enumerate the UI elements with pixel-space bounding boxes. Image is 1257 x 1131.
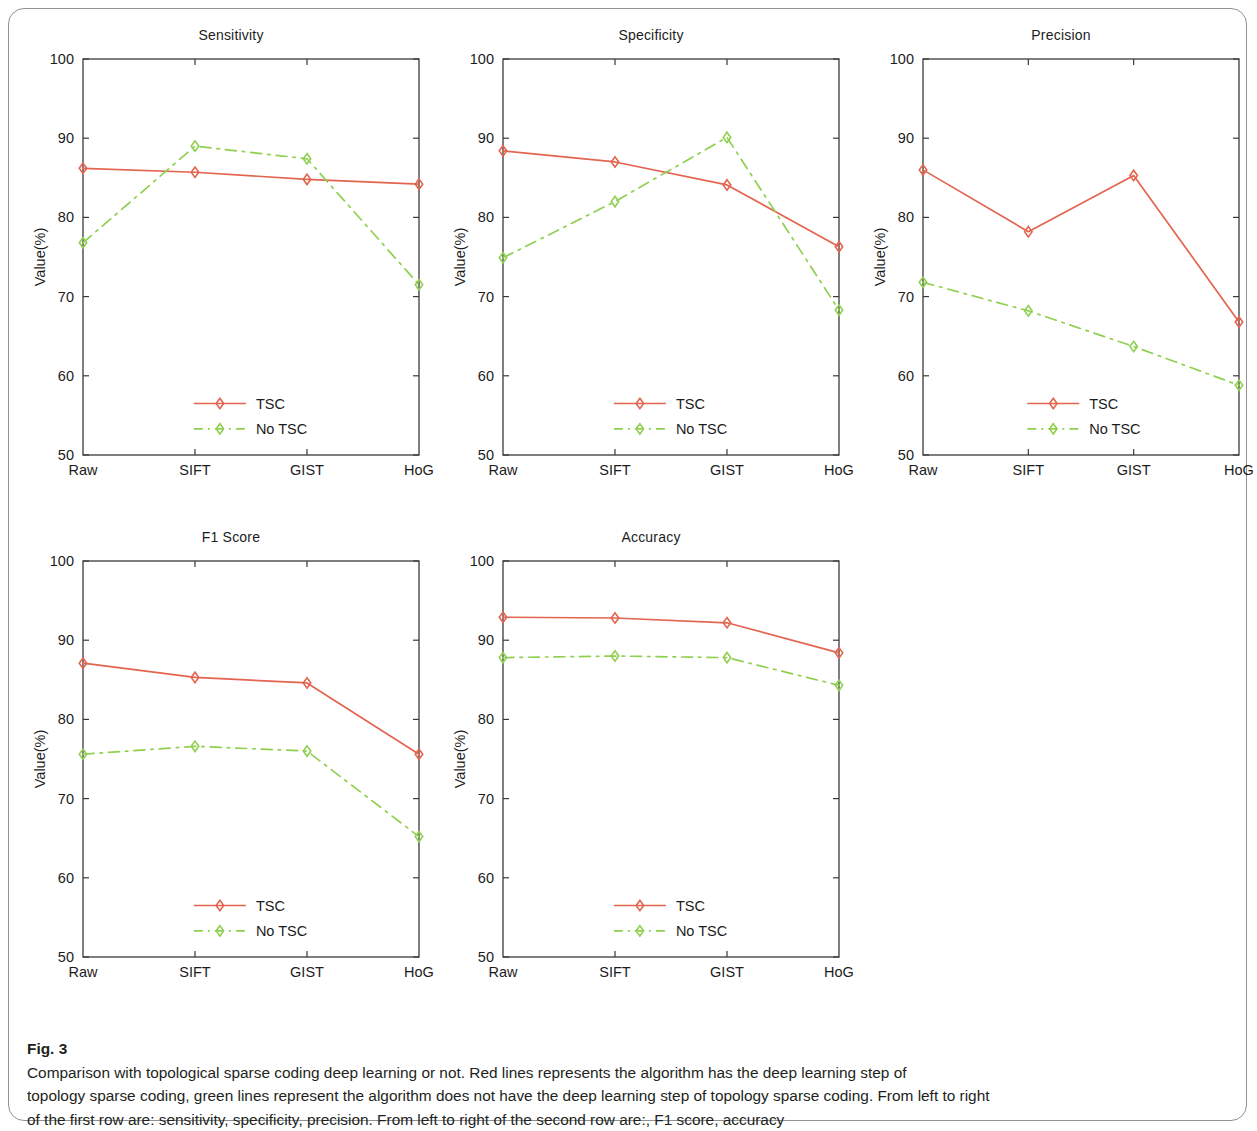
x-tick-label: GIST bbox=[710, 462, 744, 478]
legend-label-tsc: TSC bbox=[676, 898, 705, 914]
y-tick-label: 90 bbox=[478, 632, 494, 648]
y-tick-label: 100 bbox=[50, 553, 74, 569]
y-tick-label: 90 bbox=[478, 130, 494, 146]
x-tick-label: HoG bbox=[824, 462, 854, 478]
y-tick-label: 70 bbox=[478, 289, 494, 305]
y-tick-label: 70 bbox=[58, 791, 74, 807]
y-tick-label: 50 bbox=[478, 447, 494, 463]
x-tick-label: HoG bbox=[404, 462, 434, 478]
y-tick-label: 60 bbox=[478, 368, 494, 384]
legend-label-no-tsc: No TSC bbox=[676, 923, 727, 939]
y-tick-label: 100 bbox=[50, 51, 74, 67]
x-tick-label: Raw bbox=[68, 964, 98, 980]
series-line-no-tsc bbox=[83, 746, 419, 836]
legend-label-no-tsc: No TSC bbox=[676, 421, 727, 437]
x-tick-label: Raw bbox=[488, 462, 518, 478]
x-tick-label: HoG bbox=[1224, 462, 1254, 478]
y-tick-label: 50 bbox=[898, 447, 914, 463]
series-line-tsc bbox=[83, 168, 419, 184]
y-tick-label: 80 bbox=[58, 209, 74, 225]
caption-line-3: of the first row are: sensitivity, speci… bbox=[27, 1108, 1249, 1131]
x-tick-label: GIST bbox=[710, 964, 744, 980]
legend-label-tsc: TSC bbox=[256, 396, 285, 412]
figure-frame: Sensitivity5060708090100RawSIFTGISTHoGVa… bbox=[8, 8, 1247, 1121]
chart-title: Accuracy bbox=[441, 529, 861, 545]
y-tick-label: 80 bbox=[58, 711, 74, 727]
legend-label-no-tsc: No TSC bbox=[256, 421, 307, 437]
chart-specificity: Specificity5060708090100RawSIFTGISTHoGVa… bbox=[441, 27, 861, 507]
chart-title: Sensitivity bbox=[21, 27, 441, 43]
x-tick-label: Raw bbox=[68, 462, 98, 478]
y-tick-label: 50 bbox=[58, 447, 74, 463]
x-tick-label: GIST bbox=[290, 964, 324, 980]
caption-body: Comparison with topological sparse codin… bbox=[27, 1061, 1249, 1131]
y-tick-label: 100 bbox=[470, 553, 494, 569]
x-tick-label: GIST bbox=[290, 462, 324, 478]
series-line-no-tsc bbox=[503, 137, 839, 310]
y-tick-label: 80 bbox=[478, 711, 494, 727]
plot-frame bbox=[83, 59, 419, 455]
chart-accuracy: Accuracy5060708090100RawSIFTGISTHoGValue… bbox=[441, 529, 861, 1009]
x-tick-label: SIFT bbox=[179, 964, 211, 980]
legend-label-no-tsc: No TSC bbox=[256, 923, 307, 939]
y-tick-label: 60 bbox=[898, 368, 914, 384]
caption-line-1: Comparison with topological sparse codin… bbox=[27, 1061, 1249, 1085]
caption-line-2: topology sparse coding, green lines repr… bbox=[27, 1084, 1249, 1108]
legend-label-tsc: TSC bbox=[256, 898, 285, 914]
chart-title: Precision bbox=[861, 27, 1257, 43]
y-tick-label: 70 bbox=[478, 791, 494, 807]
x-tick-label: Raw bbox=[488, 964, 518, 980]
chart-plot: 5060708090100RawSIFTGISTHoGValue(%)TSCNo… bbox=[861, 43, 1257, 507]
series-line-no-tsc bbox=[503, 656, 839, 685]
x-tick-label: SIFT bbox=[179, 462, 211, 478]
y-tick-label: 50 bbox=[58, 949, 74, 965]
x-tick-label: HoG bbox=[824, 964, 854, 980]
y-axis-title: Value(%) bbox=[452, 228, 468, 287]
chart-sensitivity: Sensitivity5060708090100RawSIFTGISTHoGVa… bbox=[21, 27, 441, 507]
legend-label-tsc: TSC bbox=[676, 396, 705, 412]
chart-precision: Precision5060708090100RawSIFTGISTHoGValu… bbox=[861, 27, 1257, 507]
data-point-marker bbox=[191, 141, 198, 151]
y-tick-label: 50 bbox=[478, 949, 494, 965]
series-line-tsc bbox=[83, 663, 419, 754]
chart-plot: 5060708090100RawSIFTGISTHoGValue(%)TSCNo… bbox=[21, 43, 441, 507]
charts-grid: Sensitivity5060708090100RawSIFTGISTHoGVa… bbox=[9, 9, 1248, 1019]
y-axis-title: Value(%) bbox=[32, 228, 48, 287]
y-tick-label: 80 bbox=[478, 209, 494, 225]
x-tick-label: SIFT bbox=[599, 964, 631, 980]
x-tick-label: HoG bbox=[404, 964, 434, 980]
chart-title: Specificity bbox=[441, 27, 861, 43]
chart-plot: 5060708090100RawSIFTGISTHoGValue(%)TSCNo… bbox=[21, 545, 441, 1009]
y-axis-title: Value(%) bbox=[452, 730, 468, 789]
legend-label-no-tsc: No TSC bbox=[1089, 421, 1140, 437]
caption-label: Fig. 3 bbox=[27, 1040, 67, 1057]
y-axis-title: Value(%) bbox=[32, 730, 48, 789]
data-point-marker bbox=[611, 196, 618, 206]
plot-frame bbox=[503, 59, 839, 455]
y-tick-label: 100 bbox=[890, 51, 914, 67]
x-tick-label: SIFT bbox=[1013, 462, 1045, 478]
legend-label-tsc: TSC bbox=[1089, 396, 1118, 412]
chart-f1-score: F1 Score5060708090100RawSIFTGISTHoGValue… bbox=[21, 529, 441, 1009]
x-tick-label: GIST bbox=[1117, 462, 1151, 478]
y-tick-label: 90 bbox=[58, 130, 74, 146]
chart-plot: 5060708090100RawSIFTGISTHoGValue(%)TSCNo… bbox=[441, 545, 861, 1009]
y-tick-label: 60 bbox=[478, 870, 494, 886]
y-tick-label: 100 bbox=[470, 51, 494, 67]
y-tick-label: 90 bbox=[58, 632, 74, 648]
y-tick-label: 60 bbox=[58, 870, 74, 886]
chart-plot: 5060708090100RawSIFTGISTHoGValue(%)TSCNo… bbox=[441, 43, 861, 507]
chart-title: F1 Score bbox=[21, 529, 441, 545]
y-tick-label: 80 bbox=[898, 209, 914, 225]
y-axis-title: Value(%) bbox=[872, 228, 888, 287]
series-line-no-tsc bbox=[83, 146, 419, 285]
x-tick-label: SIFT bbox=[599, 462, 631, 478]
series-line-tsc bbox=[503, 617, 839, 653]
x-tick-label: Raw bbox=[908, 462, 938, 478]
y-tick-label: 90 bbox=[898, 130, 914, 146]
y-tick-label: 70 bbox=[898, 289, 914, 305]
figure-caption: Fig. 3 Comparison with topological spars… bbox=[27, 1037, 1249, 1131]
plot-frame bbox=[83, 561, 419, 957]
series-line-no-tsc bbox=[923, 282, 1239, 385]
series-line-tsc bbox=[923, 170, 1239, 322]
